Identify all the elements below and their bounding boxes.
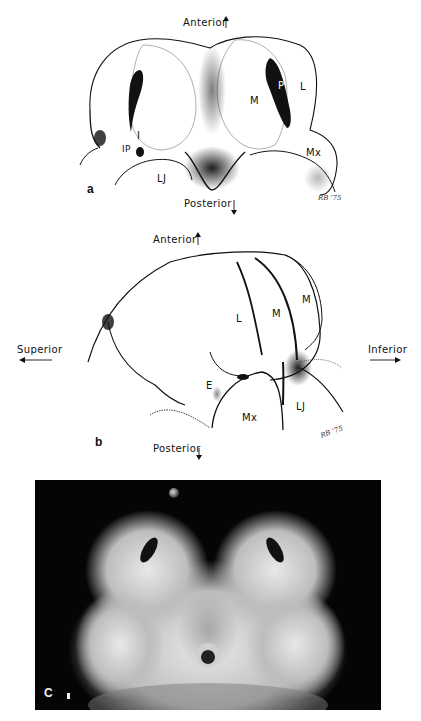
orientation-posterior-b: Posterior [153,443,201,454]
scale-bar [67,693,70,699]
orientation-superior-b: Superior [17,344,63,355]
panel-b-drawing [0,0,421,480]
label-LJ-b: LJ [296,401,305,412]
label-Mx-b: Mx [242,412,257,423]
label-M2-b: M [302,294,311,305]
embryo-photo [35,480,381,710]
label-M1-b: M [272,308,281,319]
panel-letter-c: C [44,686,53,700]
orientation-inferior-b: Inferior [368,344,407,355]
orientation-anterior-b: Anterior [153,234,197,245]
panel-letter-b: b [95,435,102,449]
label-E-b: E [206,380,213,391]
label-L-b: L [236,313,242,324]
panel-c-photograph: C [35,480,381,710]
